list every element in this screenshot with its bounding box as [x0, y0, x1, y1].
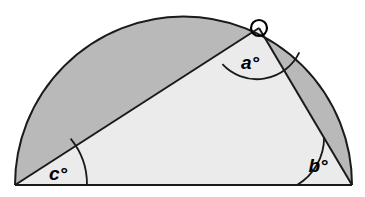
right-base-angle-label: b°	[308, 155, 328, 176]
geometry-figure: a° b° c°	[0, 0, 365, 197]
diagram-canvas: a° b° c°	[0, 0, 365, 197]
apex-angle-label: a°	[241, 52, 260, 73]
left-base-angle-label: c°	[49, 163, 68, 184]
